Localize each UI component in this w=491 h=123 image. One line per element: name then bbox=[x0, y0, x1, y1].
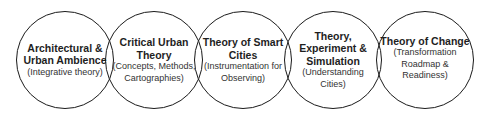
label-architectural-urban-ambience: Architectural & Urban Ambience (Integrat… bbox=[17, 12, 113, 108]
circle-subtitle: Readiness) bbox=[402, 70, 448, 82]
circle-title: Theory of Smart bbox=[203, 36, 284, 49]
circle-title: Urban Ambience bbox=[23, 54, 106, 67]
label-theory-experiment-simulation: Theory, Experiment & Simulation (Underst… bbox=[285, 12, 381, 108]
label-theory-of-smart-cities: Theory of Smart Cities (Instrumentation … bbox=[195, 12, 291, 108]
circle-title: Architectural & bbox=[27, 42, 102, 55]
circle-subtitle: Cartographies) bbox=[124, 73, 184, 85]
circle-subtitle: Observing) bbox=[221, 73, 265, 85]
circle-subtitle: (Integrative theory) bbox=[27, 67, 103, 79]
circle-subtitle: (Transformation bbox=[393, 47, 456, 59]
circle-subtitle: Roadmap & bbox=[401, 59, 449, 71]
circle-subtitle: Cities) bbox=[320, 79, 346, 91]
theory-circles-diagram: Architectural & Urban Ambience (Integrat… bbox=[0, 0, 491, 123]
circle-subtitle: (Instrumentation for bbox=[204, 61, 282, 73]
circle-title: Theory, bbox=[314, 30, 351, 43]
circle-title: Simulation bbox=[306, 55, 360, 68]
circle-title: Critical Urban bbox=[120, 36, 189, 49]
circle-subtitle: (Understanding bbox=[302, 67, 364, 79]
label-theory-of-change: Theory of Change (Transformation Roadmap… bbox=[377, 10, 473, 106]
label-critical-urban-theory: Critical Urban Theory (Concepts, Methods… bbox=[106, 12, 202, 108]
circle-title: Theory bbox=[136, 49, 171, 62]
circle-title: Experiment & bbox=[299, 42, 367, 55]
circle-subtitle: (Concepts, Methods, bbox=[112, 61, 195, 73]
circle-title: Theory of Change bbox=[380, 35, 469, 48]
circle-title: Cities bbox=[229, 49, 258, 62]
